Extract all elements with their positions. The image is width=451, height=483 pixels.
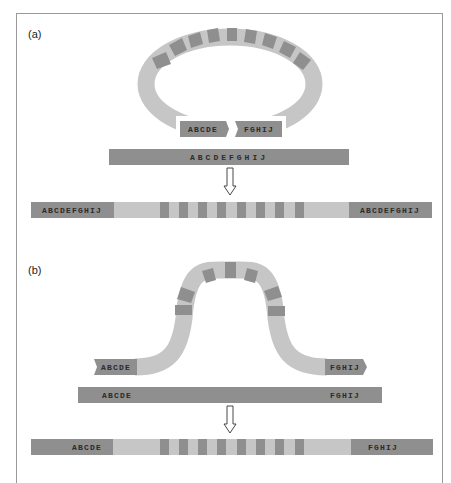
arch-right-label: FGHIJ: [330, 363, 360, 372]
arch-left-label: ABCDE: [101, 363, 131, 372]
target-sequence-b: ABCDE FGHIJ: [78, 387, 382, 403]
arrow-down-icon: [224, 168, 236, 195]
target-label-a: ABCDEFGHIJ: [190, 153, 268, 162]
result-sequence-b: ABCDE FGHIJ: [31, 439, 433, 455]
circular-vector: ABCDE FGHIJ: [146, 28, 314, 140]
linear-insert-arch: ABCDE FGHIJ: [94, 262, 367, 375]
ring-left-label: ABCDE: [188, 125, 218, 134]
result-left-label-a: ABCDEFGHIJ: [42, 206, 102, 215]
target-right-label-b: FGHIJ: [330, 391, 360, 400]
arrow-down-icon: [224, 406, 236, 433]
result-right-label-b: FGHIJ: [368, 443, 398, 452]
target-sequence-a: ABCDEFGHIJ: [109, 149, 349, 165]
ring-right-label: FGHIJ: [244, 125, 274, 134]
result-right-label-a: ABCDEFGHIJ: [360, 206, 420, 215]
target-left-label-b: ABCDE: [102, 391, 132, 400]
result-left-label-b: ABCDE: [72, 443, 102, 452]
result-sequence-a: ABCDEFGHIJ ABCDEFGHIJ: [31, 202, 432, 218]
